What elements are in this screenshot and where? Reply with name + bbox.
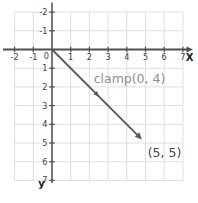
x-tick-label: 1 <box>68 52 73 62</box>
endpoint-label: (5, 5) <box>148 145 182 160</box>
y-tick-label: -1 <box>39 26 47 36</box>
y-tick-label: 5 <box>42 138 47 148</box>
x-tick-label: 4 <box>124 52 129 62</box>
y-tick-label: 4 <box>42 119 47 129</box>
vector-shaft <box>52 50 137 135</box>
y-tick-label: 3 <box>42 101 47 111</box>
coordinate-plane-chart: -2-101234567-2-11234567 X y clamp(0, 4) … <box>0 0 198 203</box>
x-axis-label: X <box>186 52 194 63</box>
y-tick-label: 1 <box>42 63 47 73</box>
y-tick-label: -2 <box>39 7 47 17</box>
plot-svg: -2-101234567-2-11234567 X y clamp(0, 4) … <box>0 0 198 203</box>
x-tick-label: 2 <box>87 52 92 62</box>
x-tick-label: 5 <box>143 52 148 62</box>
y-tick-label: 2 <box>42 82 47 92</box>
vector-annotation-label: clamp(0, 4) <box>94 71 166 86</box>
vector-arrow <box>52 50 142 140</box>
origin-tick-label: 0 <box>44 51 49 61</box>
x-tick-label: 3 <box>105 52 110 62</box>
x-tick-label: 6 <box>162 52 167 62</box>
x-tick-label: -1 <box>29 52 37 62</box>
x-tick-label: -2 <box>11 52 19 62</box>
y-tick-label: 6 <box>42 157 47 167</box>
y-axis-label: y <box>38 178 45 189</box>
